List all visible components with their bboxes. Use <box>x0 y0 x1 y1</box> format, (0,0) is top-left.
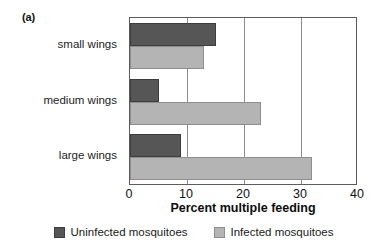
bar-uninfected-small-wings <box>130 23 216 46</box>
plot-area <box>129 17 357 185</box>
category-label-large-wings: large wings <box>0 149 123 161</box>
x-tick-40: 40 <box>350 187 364 201</box>
legend-item-infected: Infected mosquitoes <box>214 226 334 238</box>
x-tick-20: 20 <box>236 187 250 201</box>
bar-uninfected-medium-wings <box>130 79 159 102</box>
category-label-small-wings: small wings <box>0 38 123 50</box>
legend-label-uninfected: Uninfected mosquitoes <box>71 226 188 238</box>
bar-infected-medium-wings <box>130 102 261 125</box>
chart-legend: Uninfected mosquitoes Infected mosquitoe… <box>0 226 387 238</box>
legend-label-infected: Infected mosquitoes <box>231 226 334 238</box>
legend-swatch-icon-infected <box>214 227 225 238</box>
legend-item-uninfected: Uninfected mosquitoes <box>54 226 188 238</box>
legend-swatch-icon-uninfected <box>54 227 65 238</box>
x-tick-0: 0 <box>126 187 133 201</box>
x-tick-30: 30 <box>293 187 307 201</box>
x-axis-title: Percent multiple feeding <box>129 201 357 215</box>
bar-uninfected-large-wings <box>130 134 181 157</box>
x-tick-10: 10 <box>179 187 193 201</box>
bar-infected-small-wings <box>130 46 204 69</box>
bar-infected-large-wings <box>130 157 312 180</box>
chart-figure: (a) small wings medium wings large wings… <box>0 0 387 251</box>
category-axis-labels: small wings medium wings large wings <box>0 0 123 251</box>
category-label-medium-wings: medium wings <box>0 94 123 106</box>
